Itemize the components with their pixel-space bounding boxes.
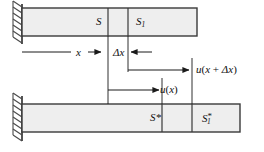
- label-section-S: S: [96, 16, 102, 27]
- label-section-S-star: S*: [150, 112, 161, 123]
- label-section-S1-star-subscript: 1: [207, 117, 211, 126]
- bottom-wall: [13, 93, 22, 141]
- label-section-S1-subscript: 1: [142, 20, 146, 29]
- bottom-wall-hatching: [13, 93, 22, 141]
- label-dimension-u-x: u(x): [160, 84, 178, 95]
- undeformed-bar: [22, 8, 197, 36]
- label-dimension-x: x: [76, 47, 81, 58]
- label-section-S1-star: S*1: [202, 112, 211, 126]
- top-wall: [13, 1, 22, 44]
- label-dimension-delta-x: Δx: [113, 47, 124, 58]
- mechanics-bar-diagram: S S1 S* S*1 x Δx u(x) u(x + Δx): [0, 0, 264, 152]
- diagram-canvas: [0, 0, 264, 152]
- label-section-S1: S1: [136, 16, 145, 29]
- label-dimension-u-x-plus-delta-x: u(x + Δx): [196, 64, 237, 75]
- top-wall-hatching: [13, 1, 22, 43]
